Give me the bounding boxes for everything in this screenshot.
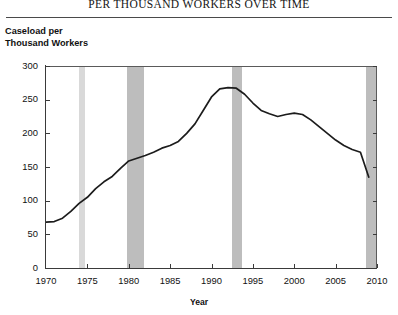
y-tick-mark <box>46 133 50 134</box>
x-tick-mark <box>377 264 378 268</box>
x-tick-mark <box>170 264 171 268</box>
x-tick-label: 1970 <box>26 275 66 286</box>
x-tick-label: 1985 <box>150 275 190 286</box>
x-tick-mark <box>87 264 88 268</box>
y-tick-label: 200 <box>2 127 38 138</box>
y-tick-label: 50 <box>2 228 38 239</box>
caseload-line-series <box>46 66 377 268</box>
y-tick-mark <box>46 100 50 101</box>
x-tick-label: 2005 <box>316 275 356 286</box>
x-tick-mark <box>336 264 337 268</box>
y-tick-mark-right <box>373 66 377 67</box>
y-tick-mark <box>46 201 50 202</box>
title-divider <box>6 17 392 18</box>
y-tick-label: 300 <box>2 60 38 71</box>
y-tick-mark-right <box>373 100 377 101</box>
y-tick-label: 250 <box>2 93 38 104</box>
y-tick-label: 150 <box>2 161 38 172</box>
x-tick-label: 1990 <box>192 275 232 286</box>
x-tick-label: 1975 <box>67 275 107 286</box>
figure-title: PER THOUSAND WORKERS OVER TIME <box>0 0 398 10</box>
y-tick-mark-right <box>373 133 377 134</box>
x-axis-caption: Year <box>0 297 398 307</box>
y-tick-mark-right <box>373 201 377 202</box>
chart-plot-area <box>46 66 377 268</box>
y-tick-mark <box>46 66 50 67</box>
x-tick-label: 2010 <box>357 275 397 286</box>
x-tick-label: 1995 <box>233 275 273 286</box>
y-tick-mark <box>46 234 50 235</box>
x-tick-mark <box>212 264 213 268</box>
x-tick-label: 2000 <box>274 275 314 286</box>
x-tick-mark <box>253 264 254 268</box>
y-axis-caption: Caseload per Thousand Workers <box>5 26 88 49</box>
y-tick-label: 0 <box>2 262 38 273</box>
x-tick-mark <box>294 264 295 268</box>
y-tick-label: 100 <box>2 194 38 205</box>
x-tick-mark <box>129 264 130 268</box>
y-tick-mark-right <box>373 167 377 168</box>
x-tick-label: 1980 <box>109 275 149 286</box>
y-tick-mark <box>46 167 50 168</box>
y-tick-mark-right <box>373 234 377 235</box>
